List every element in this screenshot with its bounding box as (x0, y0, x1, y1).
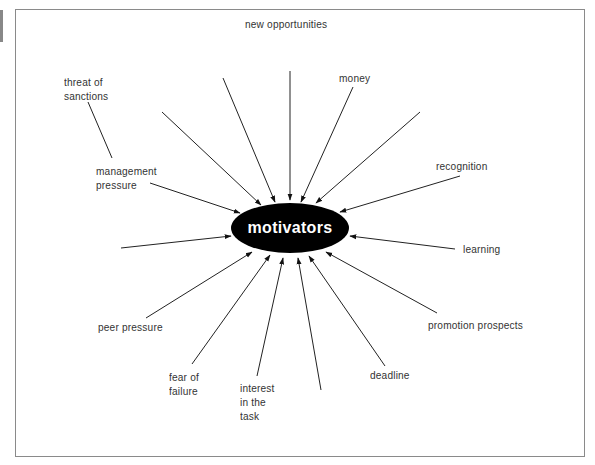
label-peer-pressure: peer pressure (98, 320, 163, 334)
label-management-pressure: management pressure (96, 164, 157, 192)
arrow-11 (257, 258, 283, 376)
arrow-12 (298, 258, 321, 390)
label-promotion-prospects: promotion prospects (428, 318, 523, 332)
label-interest-in-the-task: interest in the task (240, 381, 275, 423)
label-fear-of-failure: fear of failure (169, 370, 199, 398)
center-node-label: motivators (232, 218, 348, 238)
arrow-4 (301, 87, 353, 202)
label-money: money (339, 71, 370, 85)
label-deadline: deadline (370, 368, 410, 382)
arrow-10 (192, 255, 270, 364)
arrow-1 (223, 78, 275, 202)
arrow-2 (162, 112, 261, 205)
arrow-13 (309, 256, 385, 366)
arrow-6 (340, 176, 460, 212)
connector-line-0 (88, 102, 112, 158)
label-learning: learning (463, 242, 500, 256)
arrow-8 (121, 236, 231, 248)
arrow-5 (316, 112, 420, 203)
arrow-9 (146, 252, 252, 318)
label-threat-of-sanctions: threat of sanctions (64, 75, 108, 103)
arrow-7 (350, 236, 455, 249)
label-recognition: recognition (436, 159, 487, 173)
label-new-opportunities: new opportunities (245, 17, 327, 31)
arrow-3 (150, 183, 240, 213)
